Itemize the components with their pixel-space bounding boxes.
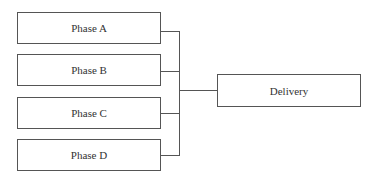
- connector-to-delivery: [179, 90, 217, 91]
- connector-vertical-bus: [179, 31, 180, 156]
- phase-c-box: Phase C: [17, 97, 161, 129]
- connector-c: [160, 113, 180, 114]
- phase-b-box: Phase B: [17, 54, 161, 86]
- phase-b-label: Phase B: [71, 64, 107, 76]
- phase-c-label: Phase C: [71, 107, 107, 119]
- connector-a: [160, 31, 180, 32]
- delivery-label: Delivery: [270, 85, 308, 97]
- phase-d-label: Phase D: [71, 149, 107, 161]
- delivery-box: Delivery: [217, 74, 361, 107]
- phase-a-label: Phase A: [71, 22, 107, 34]
- connector-d: [160, 155, 180, 156]
- connector-b: [160, 71, 180, 72]
- phase-d-box: Phase D: [17, 139, 161, 171]
- phase-a-box: Phase A: [17, 12, 161, 44]
